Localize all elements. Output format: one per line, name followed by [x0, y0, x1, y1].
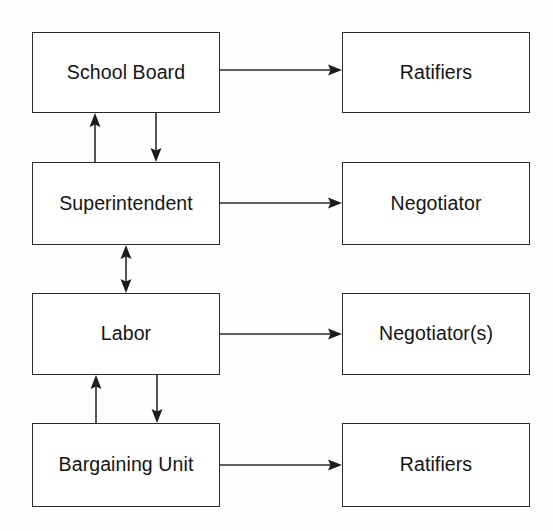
edge-superintendent-to-negotiator	[220, 198, 342, 209]
node-label-negotiators: Negotiator(s)	[379, 324, 493, 344]
node-negotiator[interactable]: Negotiator	[342, 162, 530, 245]
node-school-board[interactable]: School Board	[32, 32, 220, 113]
node-labor[interactable]: Labor	[32, 293, 220, 375]
edge-superintendent-labor-bidirectional	[121, 245, 132, 293]
node-negotiators[interactable]: Negotiator(s)	[342, 293, 530, 375]
node-bargaining-unit[interactable]: Bargaining Unit	[32, 423, 220, 507]
edge-school-board-to-superintendent-down	[151, 113, 162, 162]
edge-bargaining-unit-to-labor-up	[91, 375, 102, 423]
node-label-bargaining-unit: Bargaining Unit	[59, 455, 194, 475]
node-ratifiers-board[interactable]: Ratifiers	[342, 32, 530, 113]
node-label-school-board: School Board	[67, 63, 185, 83]
diagram-canvas: School Board Superintendent Labor Bargai…	[0, 0, 553, 531]
edge-labor-to-negotiators	[220, 329, 342, 340]
node-ratifiers-unit[interactable]: Ratifiers	[342, 423, 530, 507]
edge-superintendent-to-school-board-up	[90, 113, 101, 162]
node-label-negotiator: Negotiator	[391, 194, 482, 214]
edge-school-board-to-ratifiers	[220, 65, 342, 76]
edge-labor-to-bargaining-unit-down	[152, 375, 163, 423]
node-label-ratifiers-unit: Ratifiers	[400, 455, 472, 475]
node-label-labor: Labor	[101, 324, 151, 344]
edge-bargaining-unit-to-ratifiers	[220, 460, 342, 471]
node-superintendent[interactable]: Superintendent	[32, 162, 220, 245]
node-label-ratifiers-board: Ratifiers	[400, 63, 472, 83]
node-label-superintendent: Superintendent	[59, 194, 193, 214]
